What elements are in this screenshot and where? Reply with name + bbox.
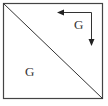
diagram-canvas: G G <box>0 0 108 106</box>
label-lower-g: G <box>25 64 34 79</box>
arrowhead-down-icon <box>89 39 95 46</box>
label-upper-g: G <box>74 17 83 32</box>
diagonal-line <box>4 4 103 99</box>
arrowhead-left-icon <box>57 10 64 16</box>
